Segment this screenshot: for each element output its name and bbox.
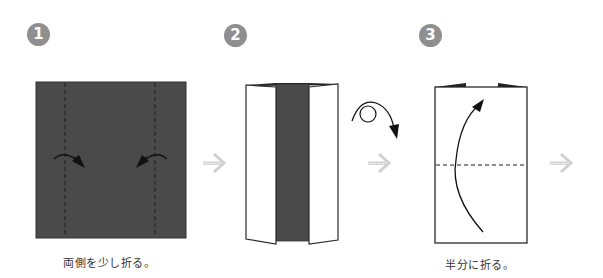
step-1-caption: 両側を少し折る。: [63, 254, 155, 270]
step-2-figure: [246, 83, 338, 244]
step-3-figure: [435, 83, 527, 243]
folded-panel-left: [246, 85, 276, 244]
next-step-arrow-icon: [368, 154, 389, 172]
folded-panel-right: [309, 84, 338, 244]
next-step-arrow-icon: [203, 154, 224, 172]
turn-over-icon: [352, 102, 399, 139]
flap-tip-left: [435, 83, 466, 87]
colored-center-strip: [276, 84, 309, 241]
step-1-figure: [36, 82, 186, 238]
next-step-arrow-icon: [550, 154, 571, 172]
step-3-caption: 半分に折る。: [445, 256, 514, 272]
colored-paper-square: [36, 82, 186, 238]
